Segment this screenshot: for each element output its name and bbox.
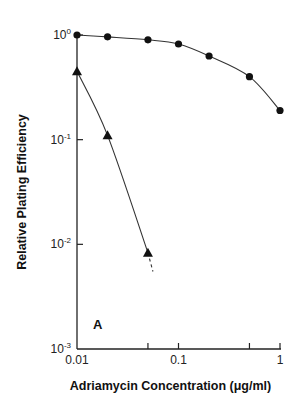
circle-marker: [205, 52, 212, 59]
y-tick-label: 10-2: [51, 236, 72, 251]
x-tick-label: 0.1: [170, 353, 187, 367]
circle-marker: [246, 73, 253, 80]
circle-marker: [144, 36, 151, 43]
circle-marker: [104, 33, 111, 40]
y-tick-label: 10-1: [51, 132, 72, 147]
triangle-marker: [103, 130, 113, 139]
triangles-line: [77, 71, 148, 253]
circle-marker: [73, 31, 80, 38]
circle-marker: [276, 107, 283, 114]
circle-marker: [175, 40, 182, 47]
chart: 10010-110-210-30.010.11 Adriamycin Conce…: [0, 0, 298, 398]
x-tick-label: 0.01: [65, 353, 89, 367]
panel-label: A: [93, 317, 103, 332]
y-axis-title: Relative Plating Efficiency: [15, 114, 29, 270]
triangle-marker: [143, 248, 153, 257]
y-tick-label: 100: [53, 27, 71, 42]
triangle-marker: [72, 66, 82, 75]
series-layer: [72, 31, 284, 271]
x-tick-label: 1: [277, 353, 284, 367]
x-axis-title: Adriamycin Concentration (μg/ml): [70, 379, 271, 393]
